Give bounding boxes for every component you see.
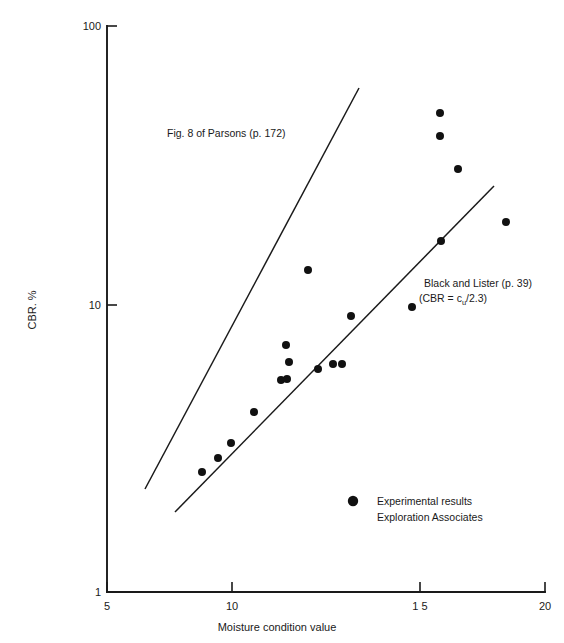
black-and-lister-annotation-label: Black and Lister (p. 39): [424, 277, 532, 289]
black-and-lister-annotation: Black and Lister (p. 39) (CBR = cu/2.3): [419, 277, 532, 307]
data-point: [304, 266, 312, 274]
data-point: [502, 218, 510, 226]
data-point: [436, 132, 444, 140]
x-axis-title: Moisture condition value: [218, 621, 337, 633]
data-point: [454, 165, 462, 173]
y-tick-label-100: 100: [83, 20, 101, 32]
data-point: [437, 237, 445, 245]
black-and-lister-formula: (CBR = cu/2.3): [419, 292, 487, 307]
tick-label-group: 100 10 1 5 10 1 5 20: [83, 20, 551, 612]
x-tick-label-5: 5: [104, 600, 110, 612]
data-point: [227, 439, 235, 447]
data-point: [198, 468, 206, 476]
data-point: [214, 454, 222, 462]
data-point: [347, 312, 355, 320]
data-point: [338, 360, 346, 368]
data-point: [314, 365, 322, 373]
data-point: [436, 109, 444, 117]
x-tick-label-10: 10: [226, 600, 238, 612]
y-tick-label-1: 1: [95, 586, 101, 598]
y-axis-title: CBR. %: [26, 290, 38, 329]
data-point: [408, 303, 416, 311]
legend-label-line-1: Experimental results: [377, 495, 472, 507]
x-tick-label-20: 20: [539, 600, 551, 612]
formula-suffix: /2.3): [466, 292, 487, 304]
legend-marker-filled-circle-icon: [348, 496, 358, 506]
data-point-group: [198, 109, 510, 476]
black-and-lister-reference-line: [175, 186, 494, 512]
cbr-moisture-scatter-chart: 100 10 1 5 10 1 5 20 CBR. % Moisture con…: [0, 0, 564, 643]
legend: Experimental results Exploration Associa…: [348, 495, 483, 523]
data-point: [283, 375, 291, 383]
data-point: [282, 341, 290, 349]
parsons-annotation-label: Fig. 8 of Parsons (p. 172): [167, 127, 285, 139]
figure-container: 100 10 1 5 10 1 5 20 CBR. % Moisture con…: [0, 0, 564, 643]
axis-group: [107, 26, 545, 592]
legend-label-line-2: Exploration Associates: [377, 511, 483, 523]
data-point: [285, 358, 293, 366]
parsons-reference-line: [145, 88, 359, 489]
x-tick-label-15: 1 5: [412, 600, 427, 612]
data-point: [329, 360, 337, 368]
formula-prefix: (CBR = c: [419, 292, 462, 304]
y-tick-label-10: 10: [89, 299, 101, 311]
data-point: [250, 408, 258, 416]
